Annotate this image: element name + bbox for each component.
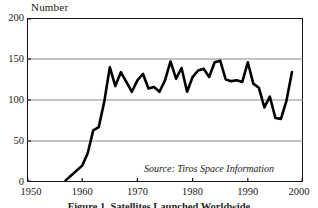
x-axis-tick-label: 2000 xyxy=(289,186,310,197)
plot-canvas xyxy=(27,18,303,182)
y-axis-tick-labels: 050100150200 xyxy=(0,18,24,182)
source-annotation: Source: Tiros Space Information xyxy=(144,163,274,175)
y-axis-title: Number xyxy=(31,0,68,14)
plot-area xyxy=(27,18,303,182)
figure-caption: Figure 1. Satellites Launched Worldwide xyxy=(68,201,251,208)
x-axis-tick-label: 1970 xyxy=(127,186,148,197)
x-axis-tick-label: 1980 xyxy=(182,186,203,197)
y-axis-tick-label: 50 xyxy=(14,136,25,147)
x-axis-tick-label: 1950 xyxy=(21,186,42,197)
chart-figure: Number 050100150200 19501960197019801990… xyxy=(0,0,318,208)
y-axis-tick-label: 150 xyxy=(8,54,24,65)
y-axis-ticks xyxy=(27,19,31,181)
y-axis-tick-label: 200 xyxy=(8,13,24,24)
x-axis-tick-label: 1960 xyxy=(72,186,93,197)
x-axis-tick-labels: 195019601970198019902000 xyxy=(27,186,303,199)
y-axis-tick-label: 100 xyxy=(8,95,24,106)
x-axis-tick-label: 1990 xyxy=(237,186,258,197)
